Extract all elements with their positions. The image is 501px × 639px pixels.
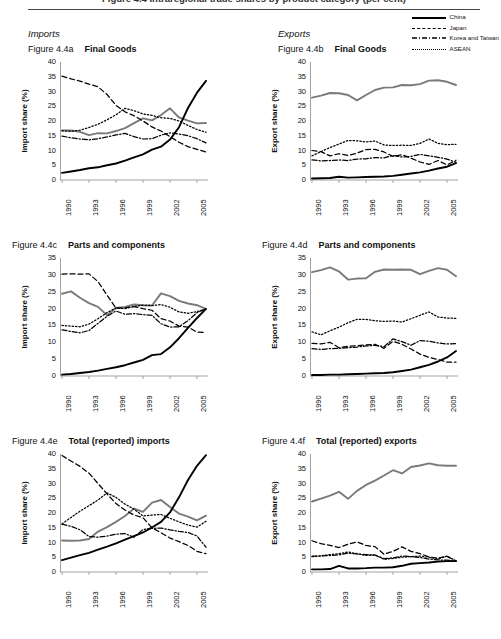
y-tick-label: 25 [48,288,56,296]
axis-lines [61,258,209,376]
y-tick-label: 15 [298,132,306,140]
y-tick-label: 0 [302,176,306,184]
y-tick-label: 0 [302,568,306,576]
y-tick-label: 20 [298,305,306,313]
x-tick-label: 2005 [200,395,208,412]
x-tick-label: 2005 [450,199,458,216]
y-tick-label: 10 [298,539,306,547]
y-axis-ticks: 0510152025303540 [268,454,306,572]
x-tick-label: 2002 [423,591,431,608]
x-tick-label: 1990 [315,395,323,412]
plot-area [60,62,208,180]
asean-line-key [412,45,446,53]
y-tick-label: 10 [48,339,56,347]
y-tick-label: 0 [52,568,56,576]
y-tick-label: 35 [298,254,306,262]
y-tick-label: 25 [298,288,306,296]
legend-label: China [450,14,466,20]
y-tick-label: 20 [48,509,56,517]
y-axis-ticks: 0510152025303540 [18,62,56,180]
series-line-korea-and-taiwan [312,154,456,162]
x-tick-label: 1999 [146,591,154,608]
y-tick-label: 40 [298,58,306,66]
x-tick-label: 2002 [173,591,181,608]
x-tick-label: 1990 [65,591,73,608]
figure-heading-4-4d: Figure 4.4dParts and components [262,240,416,250]
y-tick-label: 5 [302,554,306,562]
chart-legend: ChinaJapanKorea and TaiwanASEAN [412,12,499,54]
y-tick-label: 5 [302,162,306,170]
y-tick-label: 35 [298,465,306,473]
figure-id-4-4c: Figure 4.4c [12,240,57,250]
y-tick-label: 10 [48,147,56,155]
x-tick-label: 2002 [423,199,431,216]
series-line-china [312,561,456,569]
plot-area [60,258,208,376]
plot-svg [60,454,208,578]
y-tick-label: 35 [48,465,56,473]
x-tick-label: 2005 [200,591,208,608]
y-tick-label: 40 [298,450,306,458]
x-tick-label: 1999 [396,591,404,608]
x-axis-ticks: 199019931996199920022005 [60,578,208,614]
y-tick-label: 10 [298,147,306,155]
figure-heading-4-4c: Figure 4.4cParts and components [12,240,165,250]
y-tick-label: 35 [48,254,56,262]
x-tick-label: 1996 [369,199,377,216]
legend-item-korea-and-taiwan: Korea and Taiwan [412,33,499,44]
legend-item-japan: Japan [412,23,499,34]
x-axis-ticks: 199019931996199920022005 [60,186,208,222]
y-tick-label: 20 [48,305,56,313]
plot-svg [310,258,458,382]
x-tick-label: 2005 [200,199,208,216]
figure-title-4-4b: Final Goods [335,44,387,54]
legend-item-china: China [412,12,499,23]
y-tick-label: 20 [298,117,306,125]
y-tick-label: 10 [48,539,56,547]
figure-title-4-4c: Parts and components [68,240,165,250]
y-tick-label: 5 [52,355,56,363]
y-tick-label: 15 [48,524,56,532]
plot-area [310,258,458,376]
figure-title-4-4e: Total (reported) imports [69,436,170,446]
plot-svg [60,258,208,382]
x-tick-label: 1990 [65,199,73,216]
y-tick-label: 30 [298,480,306,488]
exports-section-caption: Exports [278,28,310,39]
x-tick-label: 1999 [396,395,404,412]
axis-lines [61,62,209,180]
chart-4-4b: Export share (%)051015202530354019901993… [268,58,466,222]
y-tick-label: 30 [298,271,306,279]
y-tick-label: 0 [52,176,56,184]
series-line-other-gray [312,80,456,100]
series-line-asean [312,312,456,335]
legend-item-asean: ASEAN [412,44,499,55]
x-tick-label: 1993 [92,395,100,412]
series-line-other-gray [312,267,456,279]
plot-area [310,62,458,180]
series-line-other-gray [62,108,206,135]
series-line-china [312,351,456,375]
x-tick-label: 2002 [173,199,181,216]
figure-heading-4-4a: Figure 4.4aFinal Goods [28,44,137,54]
y-tick-label: 30 [298,88,306,96]
x-tick-label: 1996 [119,199,127,216]
imports-section-caption: Imports [28,28,60,39]
y-axis-ticks: 0510152025303540 [268,62,306,180]
chart-4-4d: Export share (%)051015202530351990199319… [268,254,466,418]
series-line-japan [312,341,456,362]
figure-page: Figure 4.4 Intraregional trade shares by… [0,0,501,639]
figure-id-4-4e: Figure 4.4e [12,436,58,446]
chart-4-4c: Import share (%)051015202530351990199319… [18,254,216,418]
series-line-asean [62,493,206,527]
china-line-key [412,13,446,21]
plot-area [60,454,208,572]
y-tick-label: 40 [48,58,56,66]
figure-title-4-4a: Final Goods [85,44,137,54]
x-tick-label: 1996 [369,591,377,608]
y-axis-ticks: 0510152025303540 [18,454,56,572]
page-title-partial: Figure 4.4 Intraregional trade shares by… [28,0,480,7]
series-line-china [62,81,206,173]
series-line-china [312,163,456,178]
x-tick-label: 1993 [342,591,350,608]
